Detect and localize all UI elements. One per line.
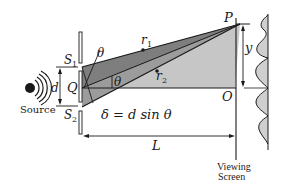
- dot-r1: [141, 48, 145, 52]
- l-label: L: [151, 138, 161, 153]
- o-label: O: [222, 89, 233, 104]
- path-difference-label: δ = d sin θ: [101, 107, 172, 122]
- source-icon: [25, 71, 52, 105]
- barrier-bottom: [79, 111, 82, 134]
- d-label: d: [51, 81, 59, 95]
- s1-label: S: [64, 53, 72, 67]
- y-arrow-up: [241, 25, 245, 31]
- s2-subscript: 2: [72, 115, 77, 124]
- d-arrow-down: [58, 99, 62, 105]
- l-arrow-right: [229, 134, 235, 138]
- y-label: y: [244, 40, 253, 55]
- d-arrow-up: [58, 68, 62, 74]
- r1-subscript: 1: [147, 40, 152, 49]
- barrier-middle: [79, 71, 82, 102]
- y-arrow-down: [241, 81, 245, 87]
- intensity-pattern: [244, 14, 268, 150]
- theta-mid-label: θ: [114, 75, 122, 89]
- s2-label: S: [64, 108, 72, 122]
- screen-label-line2: Screen: [218, 171, 245, 182]
- q-label: Q: [67, 80, 78, 95]
- double-slit-diagram: Source S 1 S 2 d Q θ θ r 1 r 2 P O y δ =…: [0, 0, 283, 196]
- l-arrow-left: [83, 134, 89, 138]
- source-label: Source: [20, 104, 56, 115]
- p-label: P: [223, 10, 233, 25]
- theta-top-label: θ: [97, 46, 105, 60]
- r2-subscript: 2: [162, 76, 167, 85]
- s1-subscript: 1: [72, 60, 77, 69]
- barrier-top: [79, 32, 82, 63]
